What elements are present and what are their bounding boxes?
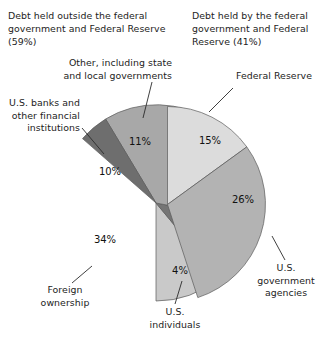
pct-us-individuals: 4% bbox=[172, 265, 188, 276]
pct-federal-reserve: 15% bbox=[199, 135, 221, 146]
chart-figure: Debt held outside the federal government… bbox=[0, 0, 324, 347]
label-us-individuals: U.S. individuals bbox=[142, 306, 208, 331]
label-us-banks: U.S. banks and other financial instituti… bbox=[2, 97, 80, 135]
label-us-government-agencies: U.S. government agencies bbox=[250, 262, 322, 300]
pct-us-government-agencies: 26% bbox=[232, 194, 254, 205]
label-other-state-local: Other, including state and local governm… bbox=[56, 57, 172, 82]
label-federal-reserve: Federal Reserve bbox=[236, 70, 312, 83]
leader-federal-reserve bbox=[209, 88, 233, 112]
pct-other: 11% bbox=[129, 136, 151, 147]
pct-foreign-ownership: 34% bbox=[94, 234, 116, 245]
leader-us-government-agencies bbox=[272, 236, 285, 260]
label-foreign-ownership: Foreign ownership bbox=[22, 284, 108, 309]
pct-us-banks: 10% bbox=[99, 166, 121, 177]
leader-foreign-ownership bbox=[72, 266, 92, 283]
